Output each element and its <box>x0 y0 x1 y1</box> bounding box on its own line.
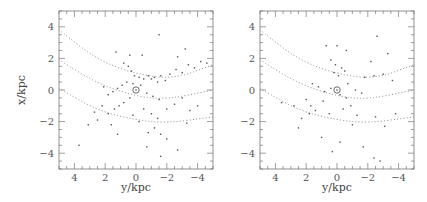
data-point <box>166 108 167 109</box>
data-point <box>103 86 104 87</box>
x-axis-label-left: y/kpc <box>120 181 151 194</box>
data-point <box>152 96 153 97</box>
data-point <box>352 124 353 125</box>
data-point <box>154 77 155 78</box>
data-point <box>158 34 159 35</box>
y-tick-label: 2 <box>48 53 54 64</box>
data-point <box>94 111 95 112</box>
data-point <box>376 36 377 37</box>
data-point <box>188 64 189 65</box>
data-point <box>166 138 167 139</box>
data-point <box>97 119 98 120</box>
data-point <box>160 156 161 157</box>
data-point <box>306 99 307 100</box>
data-point <box>157 118 158 119</box>
x-tick-label: 2 <box>102 172 108 183</box>
data-point <box>341 67 342 68</box>
data-point <box>387 53 388 54</box>
spiral-arm-curve <box>59 30 213 77</box>
data-point <box>182 72 183 73</box>
data-point <box>373 157 374 158</box>
data-point <box>132 83 133 84</box>
data-point <box>182 97 183 98</box>
data-point <box>154 127 155 128</box>
x-tick-label: −4 <box>190 172 205 183</box>
data-point <box>146 146 147 147</box>
data-point <box>324 91 325 92</box>
sun-center-dot <box>135 89 137 91</box>
data-point <box>112 91 113 92</box>
data-point <box>186 122 187 123</box>
data-point <box>160 134 161 135</box>
data-point <box>373 75 374 76</box>
data-point <box>123 102 124 103</box>
data-point <box>301 118 302 119</box>
right-panel: 420−2−4420−2−4 <box>240 11 414 183</box>
y-tick-label: −4 <box>240 148 255 159</box>
data-point <box>375 116 376 117</box>
data-point <box>117 134 118 135</box>
data-point <box>126 81 127 82</box>
data-point <box>148 75 149 76</box>
data-point <box>330 88 331 89</box>
data-point <box>132 115 133 116</box>
y-tick-label: −2 <box>240 116 255 127</box>
data-point <box>347 83 348 84</box>
x-tick-label: −2 <box>159 172 174 183</box>
data-point <box>189 110 190 111</box>
data-point <box>315 110 316 111</box>
y-axis-label-left: x/kpc <box>15 75 28 105</box>
y-tick-label: −4 <box>39 148 54 159</box>
data-point <box>143 108 144 109</box>
data-point <box>356 115 357 116</box>
data-point <box>342 108 343 109</box>
data-point <box>121 85 122 86</box>
data-point <box>185 48 186 49</box>
data-point <box>330 59 331 60</box>
data-point <box>379 160 380 161</box>
y-tick-label: 4 <box>48 21 54 32</box>
data-point <box>78 145 79 146</box>
data-point <box>123 62 124 63</box>
data-point <box>131 70 132 71</box>
data-point <box>177 149 178 150</box>
data-point <box>138 121 139 122</box>
y-tick-label: 0 <box>249 85 255 96</box>
data-point <box>146 92 147 93</box>
data-point <box>141 55 142 56</box>
data-point <box>346 97 347 98</box>
data-point <box>333 72 334 73</box>
data-point <box>364 77 365 78</box>
data-point <box>169 74 170 75</box>
data-point <box>298 127 299 128</box>
data-point <box>88 124 89 125</box>
data-point <box>384 126 385 127</box>
left-panel: 420−2−4420−2−4 <box>39 11 213 183</box>
data-point <box>336 45 337 46</box>
data-point <box>321 137 322 138</box>
data-point <box>108 113 109 114</box>
data-point <box>101 105 102 106</box>
data-point <box>177 56 178 57</box>
data-point <box>338 75 339 76</box>
data-point <box>355 89 356 90</box>
data-point <box>293 105 294 106</box>
data-point <box>344 70 345 71</box>
data-point <box>174 104 175 105</box>
data-point <box>370 61 371 62</box>
x-tick-label: 4 <box>272 172 278 183</box>
data-point <box>335 64 336 65</box>
data-point <box>134 75 135 76</box>
data-point <box>200 61 201 62</box>
data-point <box>350 105 351 106</box>
x-tick-label: 2 <box>303 172 309 183</box>
data-point <box>310 105 311 106</box>
data-point <box>346 50 347 51</box>
x-axis-label-right: y/kpc <box>321 181 352 194</box>
data-point <box>115 51 116 52</box>
data-point <box>129 97 130 98</box>
sun-center-dot <box>336 89 338 91</box>
data-point <box>118 105 119 106</box>
data-point <box>206 62 207 63</box>
x-tick-label: 4 <box>71 172 77 183</box>
